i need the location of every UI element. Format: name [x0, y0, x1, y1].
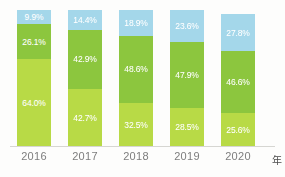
bar-segment-middle-2019[interactable]: 47.9% [170, 42, 204, 108]
bar-segment-middle-2018[interactable]: 48.6% [119, 36, 153, 103]
bar-group-2016[interactable]: 9.9% 26.1% 64.0% [17, 10, 51, 147]
bar-segment-bottom-2019[interactable]: 28.5% [170, 108, 204, 147]
bar-segment-top-2018[interactable]: 18.9% [119, 10, 153, 36]
bar-segment-bottom-2017[interactable]: 42.7% [68, 89, 102, 148]
bar-group-2017[interactable]: 14.4% 42.9% 42.7% [68, 10, 102, 147]
segment-label: 32.5% [119, 121, 153, 130]
segment-label: 26.1% [17, 37, 51, 46]
bar-segment-top-2019[interactable]: 23.6% [170, 10, 204, 42]
segment-label: 25.6% [221, 126, 255, 135]
bar-segment-top-2016[interactable]: 9.9% [17, 10, 51, 24]
segment-label: 47.9% [170, 71, 204, 80]
segment-label: 48.6% [119, 65, 153, 74]
bar-segment-top-2017[interactable]: 14.4% [68, 10, 102, 30]
segment-label: 23.6% [170, 22, 204, 31]
segment-label: 14.4% [68, 16, 102, 25]
segment-label: 64.0% [17, 99, 51, 108]
bar-segment-top-2020[interactable]: 27.8% [221, 14, 255, 51]
x-tick-2016: 2016 [9, 150, 59, 162]
bar-group-2018[interactable]: 18.9% 48.6% 32.5% [119, 10, 153, 147]
plot-area: 9.9% 26.1% 64.0% 14.4% 42.9% 42.7% 1 [0, 0, 285, 147]
x-axis-line [10, 146, 275, 147]
bar-group-2019[interactable]: 23.6% 47.9% 28.5% [170, 10, 204, 147]
bar-segment-bottom-2016[interactable]: 64.0% [17, 59, 51, 147]
stacked-bar-chart: 9.9% 26.1% 64.0% 14.4% 42.9% 42.7% 1 [0, 0, 285, 177]
segment-label: 28.5% [170, 123, 204, 132]
bar-segment-bottom-2020[interactable]: 25.6% [221, 113, 255, 147]
bar-segment-middle-2016[interactable]: 26.1% [17, 24, 51, 60]
segment-label: 27.8% [221, 28, 255, 37]
x-axis-labels: 2016 2017 2018 2019 2020 年 [0, 150, 285, 172]
segment-label: 42.7% [68, 114, 102, 123]
bar-segment-middle-2017[interactable]: 42.9% [68, 30, 102, 89]
bar-group-2020[interactable]: 27.8% 46.6% 25.6% [221, 14, 255, 147]
segment-label: 46.6% [221, 78, 255, 87]
x-axis-unit-label: 年 [272, 152, 282, 167]
x-tick-2020: 2020 [213, 150, 263, 162]
segment-label: 9.9% [17, 13, 51, 22]
bar-segment-middle-2020[interactable]: 46.6% [221, 51, 255, 113]
x-tick-2017: 2017 [60, 150, 110, 162]
x-tick-2018: 2018 [111, 150, 161, 162]
bar-segment-bottom-2018[interactable]: 32.5% [119, 103, 153, 148]
x-tick-2019: 2019 [162, 150, 212, 162]
segment-label: 18.9% [119, 19, 153, 28]
segment-label: 42.9% [68, 55, 102, 64]
